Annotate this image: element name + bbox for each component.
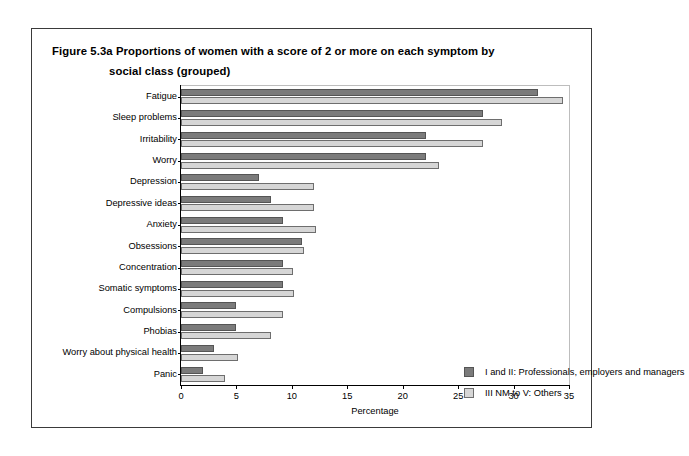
bar-series-2 (181, 162, 439, 169)
plot-area: FatigueSleep problemsIrritabilityWorryDe… (181, 86, 569, 385)
chart-row: Somatic symptoms (181, 278, 569, 299)
x-axis-tick-label: 5 (234, 391, 239, 401)
bar-series-2 (181, 311, 283, 318)
chart-row: Sleep problems (181, 107, 569, 128)
bar-series-1 (181, 281, 283, 288)
chart-row: Obsessions (181, 236, 569, 257)
bar-series-1 (181, 324, 236, 331)
bar-series-1 (181, 217, 283, 224)
chart-row: Phobias (181, 321, 569, 342)
x-axis-tick-label: 25 (453, 391, 463, 401)
bar-series-1 (181, 174, 259, 181)
legend-item: III NM to V: Others (464, 382, 689, 403)
x-axis-tick (181, 385, 182, 389)
chart-row: Concentration (181, 257, 569, 278)
x-axis-tick (236, 385, 237, 389)
bar-series-1 (181, 238, 302, 245)
x-axis-tick (347, 385, 348, 389)
category-label: Worry about physical health (62, 342, 177, 363)
x-axis-tick-label: 10 (287, 391, 297, 401)
category-label: Concentration (119, 257, 177, 278)
figure-title: Figure 5.3a Proportions of women with a … (52, 41, 572, 81)
x-axis-tick (403, 385, 404, 389)
legend-swatch-series-1 (464, 367, 474, 377)
bar-series-1 (181, 196, 271, 203)
category-label: Panic (154, 364, 177, 385)
x-axis-title: Percentage (181, 406, 569, 416)
category-label: Obsessions (128, 236, 177, 257)
figure-title-line-2: social class (grouped) (52, 61, 572, 81)
bar-series-2 (181, 226, 316, 233)
chart-row: Compulsions (181, 300, 569, 321)
bar-series-2 (181, 183, 314, 190)
chart-row: Anxiety (181, 214, 569, 235)
x-axis-tick-label: 20 (398, 391, 408, 401)
bar-series-1 (181, 153, 426, 160)
figure-frame: Figure 5.3a Proportions of women with a … (31, 28, 592, 428)
legend-item: I and II: Professionals, employers and m… (464, 361, 689, 382)
bar-series-1 (181, 345, 214, 352)
bar-series-1 (181, 302, 236, 309)
bar-series-2 (181, 332, 271, 339)
bar-series-2 (181, 268, 293, 275)
bar-series-1 (181, 89, 538, 96)
chart-row: Depressive ideas (181, 193, 569, 214)
category-label: Somatic symptoms (98, 278, 177, 299)
chart-row: Fatigue (181, 86, 569, 107)
plot-right-border (569, 85, 570, 386)
x-axis-tick-label: 0 (178, 391, 183, 401)
category-label: Worry (152, 150, 177, 171)
category-label: Irritability (140, 129, 177, 150)
bar-series-2 (181, 140, 483, 147)
bar-series-1 (181, 132, 426, 139)
chart-legend: I and II: Professionals, employers and m… (464, 361, 689, 403)
legend-label-series-2: III NM to V: Others (485, 388, 562, 398)
category-label: Sleep problems (112, 107, 177, 128)
bar-series-2 (181, 290, 294, 297)
category-label: Compulsions (123, 300, 177, 321)
legend-label-series-1: I and II: Professionals, employers and m… (485, 367, 684, 377)
category-label: Fatigue (146, 86, 177, 107)
chart-row: Worry (181, 150, 569, 171)
bar-series-2 (181, 354, 238, 361)
x-axis-tick (292, 385, 293, 389)
bar-series-2 (181, 204, 314, 211)
chart-row: Irritability (181, 129, 569, 150)
bar-series-2 (181, 375, 225, 382)
category-label: Depression (130, 171, 177, 192)
figure-title-line-1: Figure 5.3a Proportions of women with a … (52, 45, 495, 57)
category-label: Anxiety (147, 214, 178, 235)
x-axis-tick-label: 15 (342, 391, 352, 401)
category-label: Depressive ideas (106, 193, 177, 214)
bar-series-2 (181, 247, 304, 254)
bar-series-1 (181, 260, 283, 267)
category-label: Phobias (143, 321, 177, 342)
bar-series-2 (181, 97, 563, 104)
bar-series-1 (181, 110, 483, 117)
chart-row: Depression (181, 171, 569, 192)
bar-series-2 (181, 119, 502, 126)
bar-series-1 (181, 367, 203, 374)
x-axis-tick (458, 385, 459, 389)
legend-swatch-series-2 (464, 388, 474, 398)
